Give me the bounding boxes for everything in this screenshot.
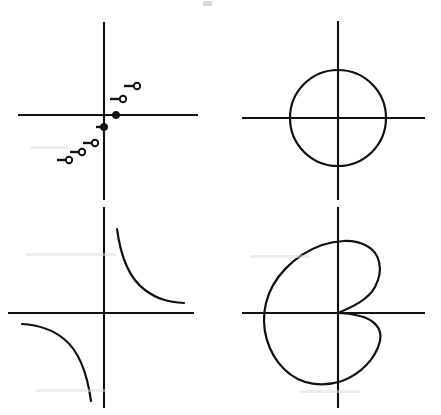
- open-endpoint: [120, 96, 126, 102]
- step-function-graph: [0, 0, 220, 207]
- hyperbola-graph: [0, 207, 220, 415]
- figure-sheet: [0, 0, 441, 415]
- open-endpoint: [79, 149, 85, 155]
- open-endpoint: [92, 140, 98, 146]
- closed-endpoint: [100, 123, 107, 130]
- open-endpoint: [134, 83, 140, 89]
- step-function-canvas: [0, 0, 220, 207]
- scan-smudge: [203, 1, 212, 6]
- circle-graph: [220, 0, 441, 207]
- scan-speck: [36, 389, 106, 392]
- step-series: [57, 83, 140, 163]
- hyperbola-branch-q1: [117, 229, 184, 303]
- cardioid-graph: [220, 207, 441, 415]
- hyperbola-canvas: [0, 207, 220, 415]
- scan-speck: [300, 390, 360, 393]
- cardioid-canvas: [220, 207, 441, 415]
- open-endpoint: [66, 157, 72, 163]
- scan-speck: [250, 255, 310, 258]
- scan-speck: [26, 253, 116, 256]
- scan-speck: [30, 146, 68, 149]
- closed-endpoint: [112, 111, 119, 118]
- circle-canvas: [220, 0, 441, 207]
